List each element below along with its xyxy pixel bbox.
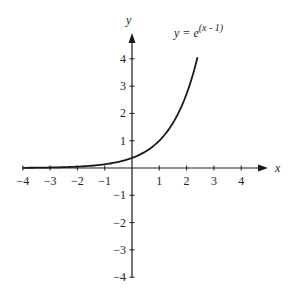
y-tick-label: −3	[113, 243, 126, 257]
x-tick-label: −3	[44, 174, 57, 188]
x-tick-label: 4	[238, 174, 244, 188]
function-annotation: y = e(x - 1)	[173, 22, 224, 40]
y-tick-label: 2	[120, 106, 126, 120]
y-tick-label: −1	[113, 188, 126, 202]
annotation-lhs: y = e	[173, 26, 199, 40]
annotation-exponent: (x - 1)	[199, 22, 224, 34]
y-tick-label: 3	[120, 79, 126, 93]
curve-exponential	[23, 57, 198, 168]
y-tick-label: 4	[120, 52, 126, 66]
x-axis-label: x	[274, 161, 281, 175]
exponential-function-graph: −4−3−2−11234−4−3−2−11234 x y y = e(x - 1…	[0, 0, 294, 297]
curve-path	[23, 57, 198, 168]
y-tick-label: 1	[120, 134, 126, 148]
x-axis-arrow-icon	[258, 165, 268, 172]
x-tick-label: −4	[16, 174, 29, 188]
y-axis-label: y	[125, 13, 132, 27]
y-tick-label: −2	[113, 216, 126, 230]
x-tick-label: −2	[71, 174, 84, 188]
axes	[23, 33, 268, 277]
x-tick-label: 3	[211, 174, 217, 188]
x-tick-label: 1	[156, 174, 162, 188]
x-tick-label: 2	[184, 174, 190, 188]
x-tick-label: −1	[98, 174, 111, 188]
y-axis-arrow-icon	[129, 33, 136, 43]
y-tick-label: −4	[113, 270, 126, 284]
